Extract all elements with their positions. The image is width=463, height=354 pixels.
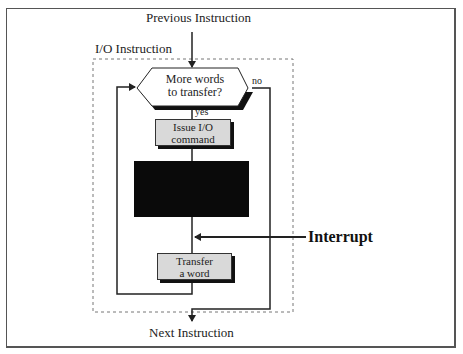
no-label: no (252, 75, 262, 86)
transfer-word-box: Transfer a word (157, 253, 232, 280)
issue-io-command-box: Issue I/O command (155, 119, 231, 146)
next-instruction-label: Next Instruction (149, 325, 234, 341)
yes-label: yes (195, 106, 208, 117)
interrupt-label: Interrupt (308, 228, 373, 246)
decision-text: More words to transfer? (152, 73, 238, 99)
redacted-block (134, 161, 249, 217)
previous-instruction-label: Previous Instruction (146, 10, 251, 26)
io-instruction-label: I/O Instruction (95, 41, 172, 57)
